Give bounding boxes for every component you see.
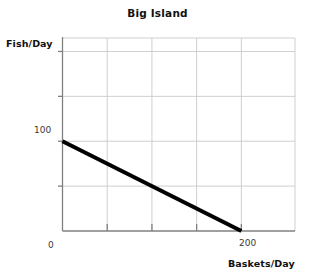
vertical-gridlines [107, 38, 241, 231]
plot-border [63, 38, 296, 231]
horizontal-gridlines [63, 51, 296, 186]
axis-lines [63, 37, 296, 231]
chart-figure: Big Island Fish/Day Baskets/Day 100 0 20… [0, 0, 315, 277]
plot-canvas [0, 0, 315, 277]
